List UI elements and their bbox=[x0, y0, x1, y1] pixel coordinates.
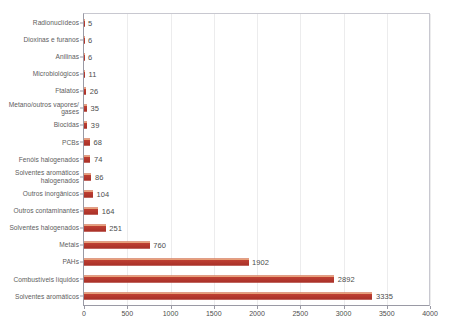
x-axis-tick bbox=[344, 306, 345, 309]
x-axis-tick-label: 3000 bbox=[336, 310, 352, 317]
bar-row: 1902 bbox=[84, 254, 429, 271]
y-axis-category-labels: RadionuclídeosDioxinas e furanosAnilinas… bbox=[0, 13, 79, 306]
bar bbox=[84, 156, 90, 163]
plot-area: 5661126353968748610416425176019022892333… bbox=[83, 13, 430, 306]
bar bbox=[84, 88, 86, 95]
y-axis-label: Solventes halogenados bbox=[0, 219, 79, 236]
x-axis-tick-label: 1000 bbox=[163, 310, 179, 317]
bar-row: 11 bbox=[84, 65, 429, 82]
bar bbox=[84, 139, 90, 146]
y-axis-label: Fenóis halogenados bbox=[0, 151, 79, 168]
bar-row: 2892 bbox=[84, 271, 429, 288]
x-axis-tick bbox=[214, 306, 215, 309]
x-axis-tick-label: 2500 bbox=[292, 310, 308, 317]
y-axis-label: Anilinas bbox=[0, 48, 79, 65]
y-axis-label: Metais bbox=[0, 237, 79, 254]
x-axis-tick bbox=[300, 306, 301, 309]
y-axis-label: Solventes aromáticoshalogenados bbox=[0, 168, 79, 185]
bar-row: 251 bbox=[84, 219, 429, 236]
bar-row: 3335 bbox=[84, 288, 429, 305]
bar-value-label: 39 bbox=[91, 121, 100, 130]
bar-row: 104 bbox=[84, 185, 429, 202]
bar-value-label: 3335 bbox=[376, 292, 393, 301]
bar bbox=[84, 276, 334, 283]
bar-row: 35 bbox=[84, 100, 429, 117]
x-axis-tick bbox=[171, 306, 172, 309]
bar-row: 5 bbox=[84, 14, 429, 31]
x-axis-tick-label: 4000 bbox=[422, 310, 438, 317]
bar-rows: 5661126353968748610416425176019022892333… bbox=[84, 14, 429, 305]
y-axis-label: Radionuclídeos bbox=[0, 14, 79, 31]
x-axis-tick bbox=[127, 306, 128, 309]
x-axis-tick bbox=[257, 306, 258, 309]
bar-value-label: 26 bbox=[90, 87, 99, 96]
bar-row: 760 bbox=[84, 237, 429, 254]
y-axis-label: Ftalatos bbox=[0, 82, 79, 99]
y-axis-label: PCBs bbox=[0, 134, 79, 151]
bar-value-label: 251 bbox=[109, 223, 122, 232]
y-axis-label: Dioxinas e furanos bbox=[0, 31, 79, 48]
x-axis-tick-label: 1500 bbox=[206, 310, 222, 317]
bar-value-label: 1902 bbox=[252, 258, 269, 267]
y-axis-label: PAHs bbox=[0, 254, 79, 271]
bar bbox=[84, 190, 93, 197]
bar-value-label: 6 bbox=[88, 35, 92, 44]
y-axis-label: Outros contaminantes bbox=[0, 202, 79, 219]
bar-row: 6 bbox=[84, 48, 429, 65]
bar-row: 39 bbox=[84, 117, 429, 134]
bar bbox=[84, 173, 91, 180]
bar-row: 26 bbox=[84, 82, 429, 99]
x-axis-tick bbox=[430, 306, 431, 309]
y-axis-label: Combustíveis líquidos bbox=[0, 271, 79, 288]
bar bbox=[84, 105, 87, 112]
bar-value-label: 74 bbox=[94, 155, 103, 164]
bar-value-label: 760 bbox=[153, 241, 166, 250]
bar-value-label: 68 bbox=[93, 138, 102, 147]
bar bbox=[84, 36, 85, 43]
bar-value-label: 5 bbox=[88, 18, 92, 27]
x-axis-tick-label: 2000 bbox=[249, 310, 265, 317]
y-axis-label: Biocidas bbox=[0, 117, 79, 134]
y-axis-label: Microbiológicos bbox=[0, 65, 79, 82]
bar-row: 164 bbox=[84, 202, 429, 219]
x-axis-tick-label: 3500 bbox=[379, 310, 395, 317]
bar bbox=[84, 19, 85, 26]
bar-value-label: 11 bbox=[88, 69, 96, 78]
bar bbox=[84, 53, 85, 60]
bar-chart: RadionuclídeosDioxinas e furanosAnilinas… bbox=[0, 0, 450, 331]
bar-value-label: 2892 bbox=[338, 275, 355, 284]
bar bbox=[84, 242, 150, 249]
bar-value-label: 86 bbox=[95, 172, 104, 181]
bar-value-label: 6 bbox=[88, 52, 92, 61]
bar-value-label: 104 bbox=[96, 189, 109, 198]
x-axis-tick-label: 0 bbox=[82, 310, 86, 317]
x-axis-tick-label: 500 bbox=[121, 310, 133, 317]
y-axis-label: Solventes aromáticos bbox=[0, 288, 79, 305]
bar bbox=[84, 70, 85, 77]
bar-row: 6 bbox=[84, 31, 429, 48]
bar bbox=[84, 207, 98, 214]
y-axis-label: Metano/outros vapores/gases bbox=[0, 100, 79, 117]
bar-row: 86 bbox=[84, 168, 429, 185]
x-axis-tick bbox=[387, 306, 388, 309]
bar-row: 74 bbox=[84, 151, 429, 168]
bar bbox=[84, 259, 249, 266]
gridline-4000 bbox=[430, 14, 431, 305]
x-axis: 05001000150020002500300035004000 bbox=[83, 306, 430, 328]
bar-value-label: 164 bbox=[102, 206, 115, 215]
bar bbox=[84, 293, 372, 300]
bar bbox=[84, 122, 87, 129]
bar bbox=[84, 224, 106, 231]
bar-row: 68 bbox=[84, 134, 429, 151]
bar-value-label: 35 bbox=[91, 104, 100, 113]
y-axis-label: Outros inorgânicos bbox=[0, 185, 79, 202]
x-axis-tick bbox=[84, 306, 85, 309]
